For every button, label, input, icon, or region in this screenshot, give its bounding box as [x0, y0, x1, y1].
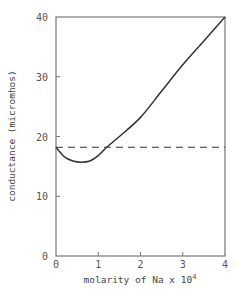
y-tick-label: 10	[36, 191, 48, 202]
x-tick-label: 0	[53, 259, 59, 270]
x-tick-label: 1	[95, 259, 101, 270]
y-tick-label: 40	[36, 12, 48, 23]
y-tick-label: 20	[36, 132, 48, 143]
x-axis-label: molarity of Na x 104	[84, 273, 197, 285]
chart: 01234010203040 molarity of Na x 104 cond…	[0, 0, 240, 299]
x-axis-label-exponent: 4	[192, 273, 196, 281]
x-tick-label: 4	[222, 259, 228, 270]
y-tick-label: 0	[42, 251, 48, 262]
conductance-curve	[56, 17, 225, 162]
x-tick-label: 3	[180, 259, 186, 270]
plot-frame	[56, 17, 225, 256]
y-tick-label: 30	[36, 72, 48, 83]
y-axis-label: conductance (micromhos)	[6, 70, 17, 202]
x-tick-label: 2	[137, 259, 143, 270]
